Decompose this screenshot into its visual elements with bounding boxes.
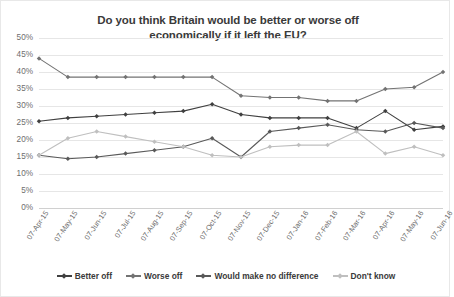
x-axis-tick-label: 07-Jun-16	[428, 209, 454, 242]
series-lines	[39, 38, 443, 208]
legend-item-2[interactable]: Worse off	[126, 271, 182, 281]
chart-legend: Better offWorse offWould make no differe…	[1, 271, 451, 281]
data-point-marker	[325, 99, 330, 104]
data-point-marker	[441, 70, 446, 75]
data-point-marker	[441, 153, 446, 158]
y-axis-tick-label: 40%	[1, 67, 33, 76]
data-point-marker	[268, 116, 273, 121]
series-4	[37, 129, 446, 159]
legend-label: Would make no difference	[214, 271, 318, 281]
data-point-marker	[325, 116, 330, 121]
x-axis-tick-label: 07-May-15	[52, 209, 79, 243]
y-axis-tick-label: 0%	[1, 203, 33, 212]
data-point-marker	[296, 116, 301, 121]
x-axis-tick-label: 07-Aug-15	[139, 209, 166, 243]
data-point-marker	[152, 75, 157, 80]
x-axis-tick-label: 07-Nov-15	[226, 209, 253, 243]
x-axis-tick-label: 07-Jul-15	[112, 209, 137, 240]
y-axis-tick-label: 15%	[1, 152, 33, 161]
data-point-marker	[94, 129, 99, 134]
data-point-marker	[94, 114, 99, 119]
data-point-marker	[412, 121, 417, 126]
legend-label: Worse off	[144, 271, 182, 281]
data-point-marker	[66, 136, 71, 141]
data-point-marker	[66, 116, 71, 121]
x-axis-tick-label: 07-Jun-15	[82, 209, 108, 242]
data-point-marker	[37, 119, 42, 124]
data-point-marker	[268, 95, 273, 100]
plot-area	[39, 38, 443, 208]
legend-label: Better off	[75, 271, 112, 281]
x-axis-tick-label: 07-Jan-16	[284, 209, 310, 242]
legend-item-3[interactable]: Would make no difference	[196, 271, 318, 281]
x-axis-tick-label: 07-Mar-16	[341, 209, 368, 242]
x-axis-tick-label: 07-Dec-15	[255, 209, 282, 243]
series-2	[37, 56, 446, 103]
data-point-marker	[152, 139, 157, 144]
data-point-marker	[123, 75, 128, 80]
data-point-marker	[37, 153, 42, 158]
data-point-marker	[66, 156, 71, 161]
legend-line-swatch	[196, 275, 211, 277]
data-point-marker	[181, 145, 186, 150]
y-axis-tick-label: 50%	[1, 33, 33, 42]
legend-item-4[interactable]: Don't know	[333, 271, 396, 281]
x-axis-tick-label: 07-May-16	[398, 209, 425, 243]
legend-line-swatch	[333, 275, 348, 277]
data-point-marker	[354, 99, 359, 104]
data-point-marker	[268, 145, 273, 150]
y-axis-tick-label: 45%	[1, 50, 33, 59]
legend-line-swatch	[57, 275, 72, 277]
data-point-marker	[325, 122, 330, 127]
data-point-marker	[296, 126, 301, 131]
data-point-marker	[152, 111, 157, 116]
data-point-marker	[94, 75, 99, 80]
y-axis-tick-label: 25%	[1, 118, 33, 127]
data-point-marker	[123, 134, 128, 139]
chart-title-line-1: Do you think Britain would be better or …	[63, 13, 393, 28]
legend-label: Don't know	[351, 271, 396, 281]
data-point-marker	[181, 75, 186, 80]
x-axis-tick-label: 07-Oct-15	[198, 209, 224, 241]
data-point-marker	[123, 112, 128, 117]
data-point-marker	[296, 95, 301, 100]
series-line	[39, 123, 443, 159]
y-axis-tick-label: 20%	[1, 135, 33, 144]
x-axis-labels: 07-Apr-1507-May-1507-Jun-1507-Jul-1507-A…	[39, 209, 443, 259]
y-axis-tick-label: 5%	[1, 186, 33, 195]
y-axis-tick-label: 30%	[1, 101, 33, 110]
data-point-marker	[152, 148, 157, 153]
data-point-marker	[383, 129, 388, 134]
series-1	[37, 102, 446, 132]
data-point-marker	[210, 153, 215, 158]
x-axis-tick-label: 07-Feb-16	[312, 209, 339, 242]
series-line	[39, 132, 443, 158]
data-point-marker	[383, 87, 388, 92]
data-point-marker	[210, 102, 215, 107]
y-axis-tick-label: 35%	[1, 84, 33, 93]
data-point-marker	[94, 155, 99, 160]
data-point-marker	[296, 143, 301, 148]
legend-item-1[interactable]: Better off	[57, 271, 112, 281]
y-axis-tick-label: 10%	[1, 169, 33, 178]
legend-line-swatch	[126, 275, 141, 277]
data-point-marker	[412, 85, 417, 90]
x-axis-tick-label: 07-Apr-16	[371, 209, 397, 241]
data-point-marker	[123, 151, 128, 156]
x-axis-tick-label: 07-Apr-15	[25, 209, 51, 241]
data-point-marker	[181, 109, 186, 114]
data-point-marker	[325, 143, 330, 148]
series-line	[39, 104, 443, 130]
data-point-marker	[412, 145, 417, 150]
data-point-marker	[239, 112, 244, 117]
x-axis-tick-label: 07-Sep-15	[168, 209, 195, 243]
